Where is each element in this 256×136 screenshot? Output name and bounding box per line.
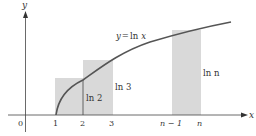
curve-label-fn: ln [130,31,139,41]
origin-label: 0 [18,119,23,128]
rect-label-lnn: ln n [203,68,220,78]
curve-label-y: y [115,31,121,41]
tick-3: 3 [109,119,114,128]
tick-1: 1 [53,119,58,128]
rect-label-ln3: ln 3 [115,82,131,92]
tick-n: n [197,119,202,128]
curve-label-eq: = [122,31,129,41]
curve-label: y=lnx [115,31,146,41]
x-axis-arrow-icon [241,113,248,118]
curve-label-x: x [141,31,146,41]
rect-label-ln2: ln 2 [86,93,102,103]
y-axis-arrow-icon [23,11,28,18]
y-axis-label: y [21,0,28,10]
rect-ln2 [55,78,83,115]
x-axis-label: x [249,110,254,120]
ln-sum-diagram: y x 0 1 2 3 n − 1 n ln 2 ln 3 ln n y=lnx [0,0,256,136]
rect-lnn [172,30,201,115]
tick-n-minus-1: n − 1 [160,119,182,128]
tick-2: 2 [80,119,85,128]
rect-ln3 [83,60,113,115]
